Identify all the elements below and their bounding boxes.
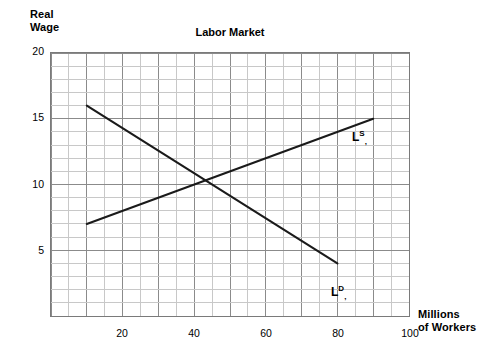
x-tick-label: 20 [102, 327, 142, 339]
x-tick-label: 40 [174, 327, 214, 339]
x-axis-title: Millions of Workers [418, 308, 476, 334]
x-axis-title-line-2: of Workers [418, 321, 476, 334]
y-tick-label: 5 [4, 244, 44, 256]
y-tick-label: 10 [4, 178, 44, 190]
y-tick-label: 20 [4, 45, 44, 57]
x-tick-label: 80 [318, 327, 358, 339]
labor-demand-curve-label: LD, [331, 285, 346, 299]
chart-screenshot: Real Wage Labor Market 5101520 204060801… [0, 0, 501, 353]
y-tick-label: 15 [4, 111, 44, 123]
labor-supply-label-subscript: , [365, 137, 367, 146]
y-axis-title-line-1: Real [30, 8, 59, 21]
x-axis-title-line-1: Millions [418, 308, 476, 321]
chart-title: Labor Market [50, 26, 410, 38]
labor-supply-curve-label: LS, [352, 130, 367, 144]
curve-lines [51, 53, 409, 316]
plot-area [50, 52, 410, 317]
x-tick-label: 60 [246, 327, 286, 339]
labor-demand-label-subscript: , [344, 292, 346, 301]
